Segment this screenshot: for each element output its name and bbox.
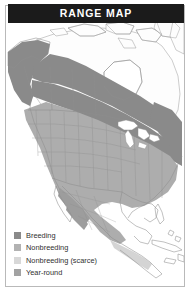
legend-item-nonbreeding: Nonbreeding bbox=[14, 242, 97, 255]
legend-swatch-nonbreeding-scarce bbox=[14, 257, 21, 264]
legend-item-nonbreeding-scarce: Nonbreeding (scarce) bbox=[14, 254, 97, 267]
legend-swatch-year-round bbox=[14, 269, 21, 276]
legend-item-year-round: Year-round bbox=[14, 267, 97, 280]
range-map-header: RANGE MAP bbox=[8, 4, 184, 23]
legend-label-nonbreeding: Nonbreeding bbox=[26, 244, 68, 251]
legend-label-nonbreeding-scarce: Nonbreeding (scarce) bbox=[26, 257, 97, 264]
legend-swatch-nonbreeding bbox=[14, 244, 21, 251]
legend-item-breeding: Breeding bbox=[14, 229, 97, 242]
legend-label-breeding: Breeding bbox=[26, 232, 56, 239]
legend-swatch-breeding bbox=[14, 232, 21, 239]
page-title: RANGE MAP bbox=[60, 8, 132, 19]
map-legend: Breeding Nonbreeding Nonbreeding (scarce… bbox=[14, 229, 97, 279]
range-map-card: RANGE MAP Breeding Nonbreeding Nonbreedi… bbox=[0, 0, 191, 293]
legend-label-year-round: Year-round bbox=[26, 269, 62, 276]
